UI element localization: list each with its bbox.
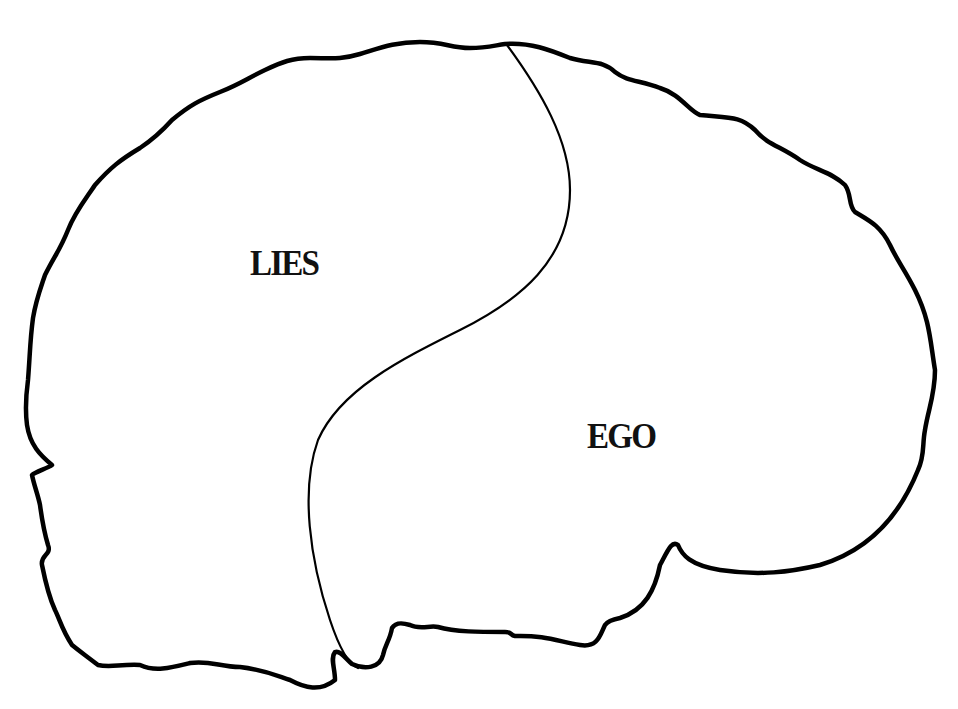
brain-outline [26,42,935,688]
brain-diagram: LIES EGO [0,0,958,709]
region-label-lies: LIES [250,245,318,281]
brain-outline-svg [0,0,958,709]
divider-curve [309,45,570,668]
region-label-ego: EGO [587,418,655,454]
